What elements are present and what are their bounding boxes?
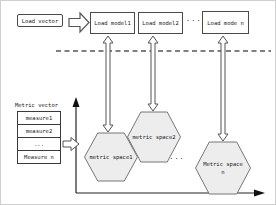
load-model-1-label: Load model1: [94, 20, 130, 26]
metric-space-n-label: Metric space n: [201, 142, 245, 194]
load-model-n-label: Load mode n: [207, 20, 243, 26]
metric-vector-row: Measure n: [17, 150, 61, 164]
load-vector-label: Load vector: [22, 18, 58, 24]
ellipsis-top: ...: [186, 15, 201, 23]
ellipsis-bottom: ...: [169, 153, 185, 161]
x-axis-arrowhead-icon: [254, 190, 265, 197]
load-model-2-label: Load model2: [142, 20, 178, 26]
double-arrow-3-icon: [218, 36, 228, 141]
load-model-1-box: Load model1: [90, 12, 135, 34]
load-model-2-box: Load model2: [138, 12, 183, 34]
block-arrow-load-vector-icon: [69, 13, 89, 32]
metric-vector-row: ...: [17, 137, 61, 151]
metric-vector-title: Metric vector: [15, 102, 67, 109]
load-vector-box: Load vector: [17, 14, 63, 27]
metric-vector-row: measure1: [17, 111, 61, 125]
load-model-n-box: Load mode n: [202, 11, 249, 34]
y-axis-arrowhead-icon: [73, 97, 80, 107]
metric-vector-table: measure1 measure2 ... Measure n: [17, 112, 61, 164]
diagram-canvas: Load vector Load model1 Load model2 ... …: [0, 0, 276, 205]
double-arrow-2-icon: [148, 36, 158, 111]
metric-vector-row: measure2: [17, 124, 61, 138]
